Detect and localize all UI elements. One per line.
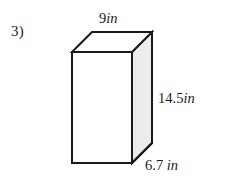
rectangular-prism-drawing: [0, 0, 230, 182]
width-unit: in: [106, 10, 117, 26]
prism-front-face: [72, 52, 132, 163]
depth-unit: in: [163, 157, 178, 173]
height-unit: in: [183, 90, 194, 106]
dimension-label-width: 9in: [99, 11, 118, 26]
prism-side-face: [132, 32, 152, 163]
dimension-label-depth: 6.7 in: [145, 158, 178, 173]
depth-value: 6.7: [145, 157, 163, 173]
height-value: 14.5: [158, 90, 183, 106]
worksheet-figure-container: 3) 9in 14.5in 6.7 in: [0, 0, 230, 182]
dimension-label-height: 14.5in: [158, 91, 195, 106]
